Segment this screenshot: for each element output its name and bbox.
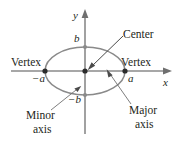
center-label: Center — [123, 29, 154, 41]
x-axis-arrowhead — [163, 68, 172, 75]
center-leader — [88, 36, 123, 70]
vertex-right-label: Vertex — [121, 57, 151, 69]
vertex-left-label: Vertex — [11, 57, 41, 69]
tick-label-negative-a: −a — [32, 73, 45, 84]
minor-axis-label-line2: axis — [33, 124, 52, 136]
vertex-right-point — [122, 68, 127, 73]
y-axis-arrowhead — [82, 9, 89, 18]
center-point — [82, 68, 87, 73]
major-axis-label-line1: Major — [129, 105, 157, 117]
y-axis-label: y — [73, 10, 78, 21]
ellipse-figure: y x b −b a −a Vertex Vertex Center Minor… — [0, 0, 177, 142]
major-axis-label-line2: axis — [135, 119, 154, 131]
co-vertex-top-point — [83, 45, 87, 49]
minor-axis-label-line1: Minor — [26, 110, 55, 122]
center-leader-line — [92, 36, 123, 66]
tick-label-a: a — [128, 73, 134, 84]
tick-label-negative-b: −b — [68, 94, 81, 105]
co-vertex-bottom-point — [83, 93, 87, 97]
x-axis-label: x — [163, 77, 168, 88]
tick-label-b: b — [74, 33, 80, 44]
minor-axis-leader-arrowhead — [74, 86, 81, 92]
